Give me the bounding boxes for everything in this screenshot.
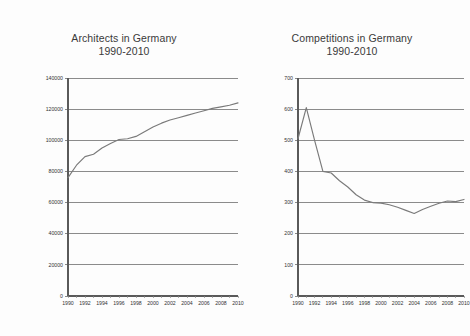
y-axis-tick-label: 120000 <box>46 106 63 112</box>
x-axis-tick-label: 1992 <box>309 300 321 306</box>
x-axis-tick-label: 2008 <box>215 300 227 306</box>
x-axis-tick-label: 1996 <box>113 300 125 306</box>
figure-canvas: Architects in Germany 1990-2010 02000040… <box>0 0 470 336</box>
plot-area-architects: 0200004000060000800001000001200001400001… <box>8 0 240 336</box>
x-axis-tick-label: 1990 <box>62 300 74 306</box>
plot-area-competitions: 0100200300400500600700199019921994199619… <box>238 0 466 336</box>
x-axis-tick-label: 2010 <box>458 300 470 306</box>
y-axis-tick-label: 60000 <box>49 199 64 205</box>
x-axis-tick-label: 2008 <box>442 300 454 306</box>
x-axis-tick-label: 1998 <box>130 300 142 306</box>
x-axis-tick-label: 2000 <box>147 300 159 306</box>
x-axis-tick-label: 2002 <box>392 300 404 306</box>
y-axis-tick-label: 0 <box>290 293 293 299</box>
x-axis-tick-label: 2006 <box>425 300 437 306</box>
y-axis-tick-label: 500 <box>284 137 293 143</box>
y-axis-tick-label: 140000 <box>46 75 63 81</box>
x-axis-tick-label: 1994 <box>96 300 108 306</box>
x-axis-tick-label: 2004 <box>181 300 193 306</box>
chart-panel-competitions: Competitions in Germany 1990-2010 010020… <box>238 0 466 336</box>
y-axis-tick-label: 100000 <box>46 137 63 143</box>
plot-svg-competitions: 0100200300400500600700199019921994199619… <box>238 0 466 336</box>
y-axis-tick-label: 20000 <box>49 262 64 268</box>
y-axis-tick-label: 300 <box>284 199 293 205</box>
y-axis-tick-label: 100 <box>284 262 293 268</box>
x-axis-tick-label: 1996 <box>342 300 354 306</box>
data-series-line <box>298 108 464 214</box>
chart-panel-architects: Architects in Germany 1990-2010 02000040… <box>8 0 240 336</box>
y-axis-tick-label: 40000 <box>49 230 64 236</box>
y-axis-tick-label: 0 <box>60 293 63 299</box>
y-axis-tick-label: 200 <box>284 230 293 236</box>
x-axis-tick-label: 2000 <box>375 300 387 306</box>
y-axis-tick-label: 400 <box>284 168 293 174</box>
plot-svg-architects: 0200004000060000800001000001200001400001… <box>8 0 240 336</box>
y-axis-tick-label: 600 <box>284 106 293 112</box>
x-axis-tick-label: 1990 <box>292 300 304 306</box>
y-axis-tick-label: 80000 <box>49 168 64 174</box>
x-axis-tick-label: 1992 <box>79 300 91 306</box>
x-axis-tick-label: 1994 <box>325 300 337 306</box>
x-axis-tick-label: 2002 <box>164 300 176 306</box>
y-axis-tick-label: 700 <box>284 75 293 81</box>
x-axis-tick-label: 2006 <box>198 300 210 306</box>
x-axis-tick-label: 1998 <box>359 300 371 306</box>
x-axis-tick-label: 2004 <box>408 300 420 306</box>
